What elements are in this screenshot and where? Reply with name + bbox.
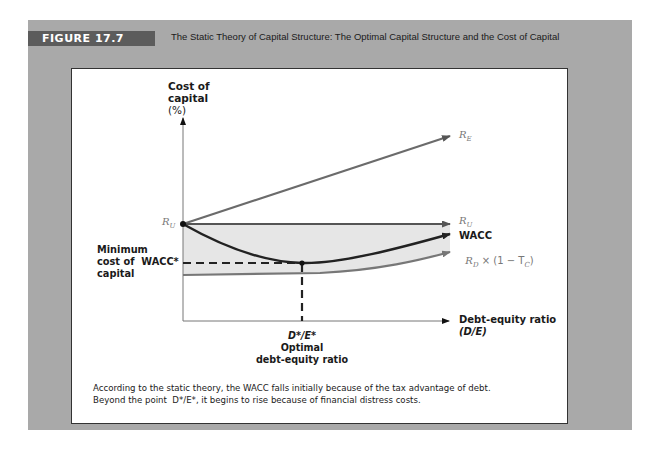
legend-rd: RD × (1 − TC) <box>459 244 534 269</box>
y-axis-label: Cost of capital (%) <box>168 80 210 116</box>
optimal-de-label: D*/E* Optimal debt-equity ratio <box>242 330 362 366</box>
legend-re: RE <box>459 129 472 143</box>
shaded-region <box>183 224 450 275</box>
re-line <box>183 136 450 224</box>
x-axis-label: Debt-equity ratio (D/E) <box>459 314 556 338</box>
legend-wacc: WACC <box>459 230 492 241</box>
legend-ru: RU <box>459 215 472 229</box>
figure-caption: According to the static theory, the WACC… <box>93 382 563 406</box>
ru-axis-label: RU <box>162 216 175 230</box>
wacc-min-point <box>299 260 304 265</box>
ru-point <box>180 221 186 227</box>
min-cost-label: Minimum cost of WACC* capital <box>97 244 179 280</box>
